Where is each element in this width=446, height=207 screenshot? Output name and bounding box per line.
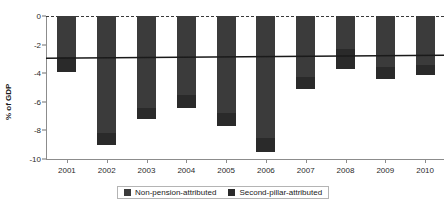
x-tick-mark bbox=[306, 159, 307, 163]
y-tick-label: -10 bbox=[29, 155, 41, 164]
x-tick-label: 2003 bbox=[138, 166, 156, 175]
y-tick-label: -8 bbox=[34, 126, 41, 135]
x-tick-label: 2007 bbox=[297, 166, 315, 175]
y-tick-label: -2 bbox=[34, 40, 41, 49]
y-tick-label: -6 bbox=[34, 97, 41, 106]
x-axis-spine bbox=[46, 159, 444, 160]
x-tick-mark bbox=[107, 159, 108, 163]
x-tick-label: 2009 bbox=[376, 166, 394, 175]
x-tick-mark bbox=[67, 159, 68, 163]
x-tick-label: 2004 bbox=[177, 166, 195, 175]
x-tick-mark bbox=[425, 159, 426, 163]
plot-area: 0-2-4-6-8-10 200120022003200420052006200… bbox=[46, 16, 444, 159]
x-tick-label: 2001 bbox=[58, 166, 76, 175]
legend-entry: Non-pension-attributed bbox=[124, 188, 216, 197]
x-tick-mark bbox=[226, 159, 227, 163]
x-tick-mark bbox=[186, 159, 187, 163]
legend-label: Second-pillar-attributed bbox=[239, 188, 322, 197]
x-tick-mark bbox=[346, 159, 347, 163]
x-tick-mark bbox=[266, 159, 267, 163]
y-tick-label: -4 bbox=[34, 69, 41, 78]
legend-entry: Second-pillar-attributed bbox=[228, 188, 322, 197]
legend-swatch-icon bbox=[228, 189, 235, 196]
x-tick-mark bbox=[147, 159, 148, 163]
chart-container: % of GDP 0-2-4-6-8-10 200120022003200420… bbox=[0, 0, 446, 207]
x-tick-label: 2008 bbox=[337, 166, 355, 175]
average-reference-line bbox=[46, 16, 444, 159]
chart-legend: Non-pension-attributedSecond-pillar-attr… bbox=[117, 186, 329, 199]
legend-label: Non-pension-attributed bbox=[135, 188, 216, 197]
x-tick-label: 2010 bbox=[416, 166, 434, 175]
legend-swatch-icon bbox=[124, 189, 131, 196]
x-tick-label: 2002 bbox=[98, 166, 116, 175]
x-tick-label: 2005 bbox=[217, 166, 235, 175]
x-tick-mark bbox=[385, 159, 386, 163]
y-tick-label: 0 bbox=[37, 12, 41, 21]
x-tick-label: 2006 bbox=[257, 166, 275, 175]
